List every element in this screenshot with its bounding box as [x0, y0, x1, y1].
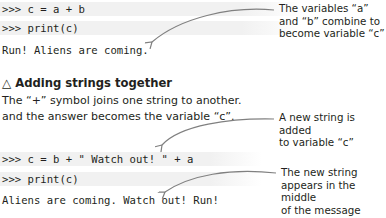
annotation-arrows [0, 0, 386, 218]
arrow-icon [152, 9, 274, 42]
arrow-icon [165, 171, 276, 192]
arrow-icon [162, 119, 274, 145]
